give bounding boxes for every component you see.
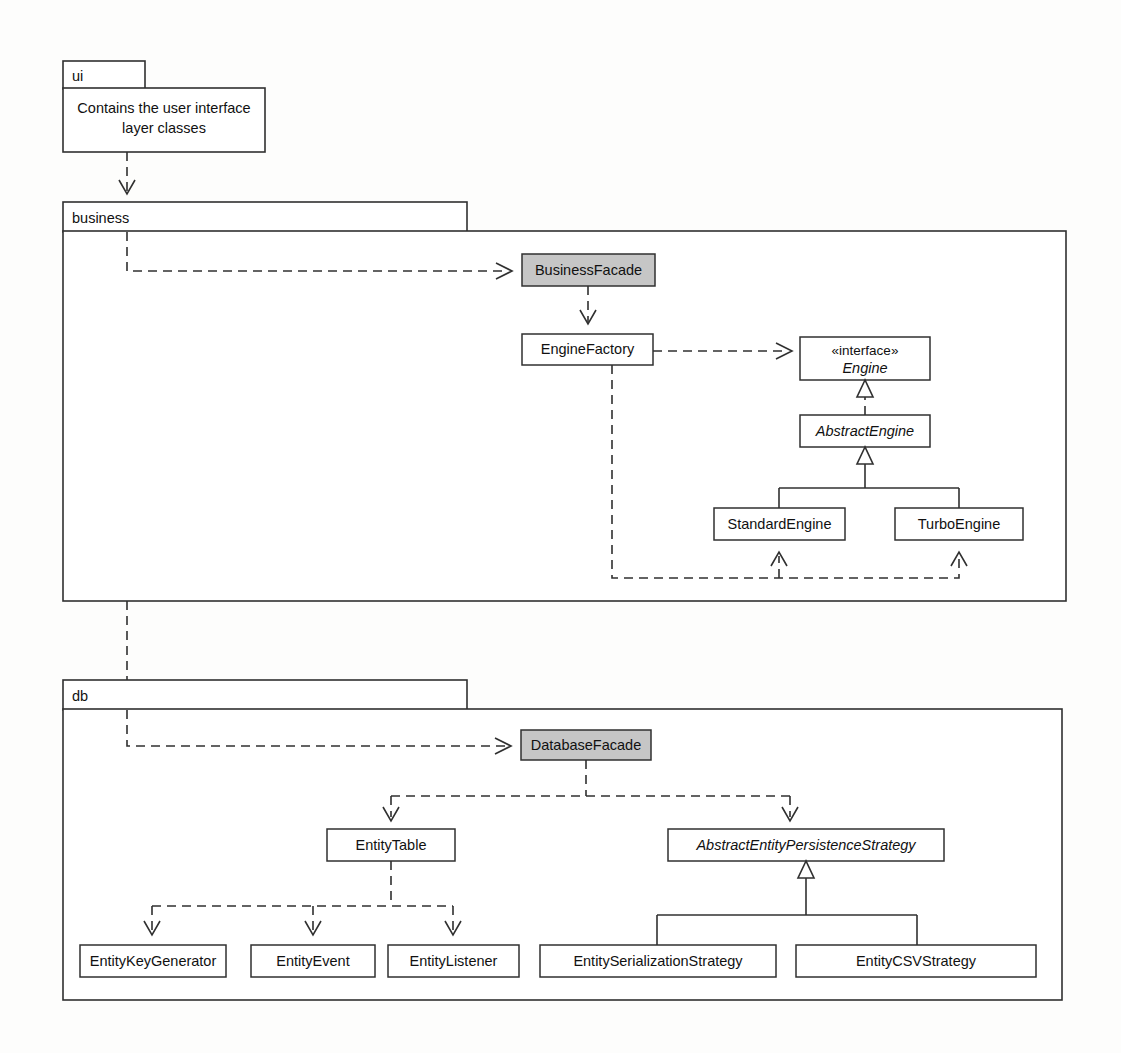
class-abstractentitypersistencestrategy-label: AbstractEntityPersistenceStrategy	[695, 837, 916, 853]
class-entitytable-label: EntityTable	[356, 837, 427, 853]
class-enginefactory[interactable]: EngineFactory	[522, 334, 653, 365]
class-entitykeygenerator-label: EntityKeyGenerator	[90, 953, 217, 969]
class-businessfacade[interactable]: BusinessFacade	[522, 254, 655, 286]
class-entitykeygenerator[interactable]: EntityKeyGenerator	[80, 945, 226, 977]
package-ui-note-line1: Contains the user interface	[77, 100, 250, 116]
class-entityevent-label: EntityEvent	[276, 953, 349, 969]
class-engine[interactable]: «interface» Engine	[800, 337, 930, 380]
class-abstractengine[interactable]: AbstractEngine	[800, 415, 930, 447]
uml-package-diagram: ui Contains the user interface layer cla…	[0, 0, 1121, 1053]
package-db-tab	[63, 680, 467, 710]
class-databasefacade[interactable]: DatabaseFacade	[521, 730, 651, 760]
package-ui-label: ui	[72, 68, 83, 84]
class-entitylistener[interactable]: EntityListener	[388, 945, 519, 977]
package-db-label: db	[72, 688, 88, 704]
class-enginefactory-label: EngineFactory	[541, 341, 635, 357]
class-abstractentitypersistencestrategy[interactable]: AbstractEntityPersistenceStrategy	[668, 829, 944, 861]
package-business-label: business	[72, 210, 129, 226]
class-entityevent[interactable]: EntityEvent	[251, 945, 375, 977]
class-engine-label: Engine	[842, 360, 887, 376]
class-standardengine[interactable]: StandardEngine	[714, 508, 845, 540]
class-businessfacade-label: BusinessFacade	[535, 262, 642, 278]
relationship-ui-to-business	[119, 152, 135, 194]
class-databasefacade-label: DatabaseFacade	[531, 737, 641, 753]
class-abstractengine-label: AbstractEngine	[815, 423, 914, 439]
class-entityserializationstrategy-label: EntitySerializationStrategy	[573, 953, 743, 969]
class-entityserializationstrategy[interactable]: EntitySerializationStrategy	[540, 945, 776, 977]
diagram-canvas: ui Contains the user interface layer cla…	[0, 0, 1121, 1053]
class-standardengine-label: StandardEngine	[728, 516, 832, 532]
class-engine-stereotype: «interface»	[832, 343, 899, 358]
class-turboengine[interactable]: TurboEngine	[895, 508, 1023, 540]
class-entitycsvstrategy[interactable]: EntityCSVStrategy	[796, 945, 1036, 977]
class-entitylistener-label: EntityListener	[410, 953, 498, 969]
class-entitycsvstrategy-label: EntityCSVStrategy	[856, 953, 977, 969]
class-entitytable[interactable]: EntityTable	[327, 829, 455, 861]
package-ui-note-line2: layer classes	[122, 120, 206, 136]
class-turboengine-label: TurboEngine	[918, 516, 1001, 532]
package-ui[interactable]: ui Contains the user interface layer cla…	[63, 61, 265, 152]
